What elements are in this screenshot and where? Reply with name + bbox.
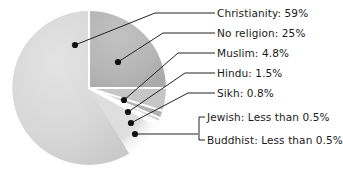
callout-dot-sikh	[128, 120, 134, 126]
bracket-jewish-buddhist	[199, 117, 205, 140]
callout-dot-hindu	[125, 109, 131, 115]
callout-dot-muslim	[121, 97, 127, 103]
callout-dot-no-religion	[115, 59, 121, 65]
callout-dot-christianity	[72, 42, 78, 48]
callout-dot-jewish-buddhist	[132, 131, 138, 137]
